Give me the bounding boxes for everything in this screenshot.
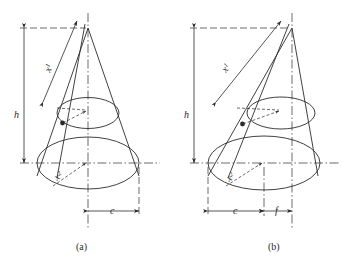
slant-cut-line-b (228, 24, 289, 178)
label-c-a: c (110, 205, 115, 216)
dimension-line-x1-a (43, 21, 77, 102)
label-h-a: h (14, 109, 19, 120)
intersection-dot-b (240, 122, 245, 127)
upper-radius-arrow-a (63, 111, 86, 123)
dimension-line-x1-b (216, 21, 281, 102)
label-x1-b: x1 (218, 61, 232, 75)
upper-radius-dash-a (57, 108, 86, 110)
caption-b: (b) (268, 241, 280, 253)
cone-side-right-a (88, 28, 139, 176)
label-c-b: c (233, 205, 238, 216)
label-x1-a: x1 (41, 62, 55, 74)
label-x2-a: x2 (51, 169, 65, 183)
figure-container: h x1 x2 c (a) h x1 (0, 0, 352, 265)
intersection-dot-a (60, 121, 65, 126)
slant-cut-line-a (57, 24, 85, 178)
label-h-b: h (184, 109, 189, 120)
panel-b (190, 13, 340, 228)
caption-a: (a) (76, 241, 87, 253)
cone-diagram-svg: h x1 x2 c (a) h x1 (0, 0, 352, 265)
panel-a (20, 13, 160, 228)
cone-side-left-b (208, 28, 292, 176)
upper-radius-dash-b (237, 108, 279, 110)
label-f-b: f (275, 205, 279, 216)
upper-ellipse-b (247, 97, 315, 129)
